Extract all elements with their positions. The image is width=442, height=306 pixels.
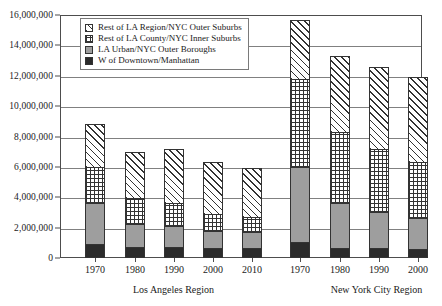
x-tick-label: 1970 xyxy=(85,264,105,275)
y-tick-label: 16,000,000 xyxy=(9,10,53,20)
x-tick-label: 1970 xyxy=(290,264,310,275)
legend-item: LA Urban/NYC Outer Boroughs xyxy=(85,44,242,55)
y-tick-label: 8,000,000 xyxy=(14,132,53,142)
bar-segment xyxy=(290,167,310,242)
bar-segment xyxy=(290,20,310,79)
bar-segment xyxy=(408,77,428,163)
x-axis: 19701980199020002010Los Angeles Region19… xyxy=(60,258,422,306)
bar-segment xyxy=(203,231,223,248)
x-tick-mark xyxy=(379,258,380,262)
x-tick-mark xyxy=(95,258,96,262)
y-tick-label: 14,000,000 xyxy=(9,40,53,50)
stacked-bar-chart: 02,000,0004,000,0006,000,0008,000,00010,… xyxy=(0,0,442,306)
x-tick-label: 1980 xyxy=(330,264,350,275)
x-tick-mark xyxy=(252,258,253,262)
bar-segment xyxy=(330,132,350,203)
group-label: New York City Region xyxy=(331,284,423,295)
bar-segment xyxy=(330,203,350,249)
legend-swatch-icon xyxy=(85,57,93,65)
x-tick-mark xyxy=(300,258,301,262)
bar-segment xyxy=(203,162,223,213)
bar-segment xyxy=(408,249,428,258)
bar-segment xyxy=(203,248,223,258)
bar-segment xyxy=(242,232,262,248)
legend-label: Rest of LA Region/NYC Outer Suburbs xyxy=(98,23,242,32)
bar-segment xyxy=(330,248,350,258)
legend-swatch-icon xyxy=(85,24,93,32)
bar-segment xyxy=(125,152,145,198)
bar-segment xyxy=(85,244,105,258)
y-tick-label: 12,000,000 xyxy=(9,71,53,81)
x-tick-mark xyxy=(340,258,341,262)
bar-segment xyxy=(369,212,389,248)
legend-label: W of Downtown/Manhattan xyxy=(98,56,199,65)
bar-segment xyxy=(242,248,262,258)
y-tick-label: 6,000,000 xyxy=(14,162,53,172)
y-tick-label: 2,000,000 xyxy=(14,223,53,233)
y-tick-label: 10,000,000 xyxy=(9,101,53,111)
legend-item: Rest of LA County/NYC Inner Suburbs xyxy=(85,33,242,44)
bar-segment xyxy=(164,203,184,226)
legend-swatch-icon xyxy=(85,46,93,54)
x-tick-label: 1980 xyxy=(125,264,145,275)
bar-segment xyxy=(369,149,389,212)
bar-segment xyxy=(330,56,350,132)
x-tick-mark xyxy=(174,258,175,262)
legend-swatch-icon xyxy=(85,35,93,43)
bar-segment xyxy=(125,198,145,224)
x-tick-label: 2010 xyxy=(242,264,262,275)
bar-segment xyxy=(164,247,184,258)
bar-segment xyxy=(408,162,428,217)
y-tick-label: 0 xyxy=(48,253,53,263)
bar-segment xyxy=(85,203,105,243)
x-tick-label: 2000 xyxy=(408,264,428,275)
x-tick-label: 2000 xyxy=(203,264,223,275)
bar-segment xyxy=(242,217,262,231)
legend-item: Rest of LA Region/NYC Outer Suburbs xyxy=(85,22,242,33)
x-tick-mark xyxy=(135,258,136,262)
x-tick-mark xyxy=(418,258,419,262)
x-tick-mark xyxy=(213,258,214,262)
bar-segment xyxy=(242,168,262,218)
bar-segment xyxy=(85,124,105,167)
x-tick-label: 1990 xyxy=(164,264,184,275)
bar-segment xyxy=(164,149,184,203)
bar-segment xyxy=(369,67,389,149)
bar-segment xyxy=(125,247,145,258)
bar-segment xyxy=(290,242,310,258)
legend-label: LA Urban/NYC Outer Boroughs xyxy=(98,45,216,54)
legend-item: W of Downtown/Manhattan xyxy=(85,55,242,66)
bar-segment xyxy=(164,226,184,247)
x-tick-label: 1990 xyxy=(369,264,389,275)
bar-segment xyxy=(290,79,310,167)
y-axis: 02,000,0004,000,0006,000,0008,000,00010,… xyxy=(0,0,60,270)
bar-segment xyxy=(408,218,428,249)
bar-segment xyxy=(369,248,389,258)
bar-segment xyxy=(125,224,145,247)
y-tick-label: 4,000,000 xyxy=(14,192,53,202)
legend-label: Rest of LA County/NYC Inner Suburbs xyxy=(98,34,241,43)
group-label: Los Angeles Region xyxy=(133,284,214,295)
bar-segment xyxy=(203,214,223,231)
chart-legend: Rest of LA Region/NYC Outer SuburbsRest … xyxy=(80,18,249,70)
bar-segment xyxy=(85,167,105,203)
